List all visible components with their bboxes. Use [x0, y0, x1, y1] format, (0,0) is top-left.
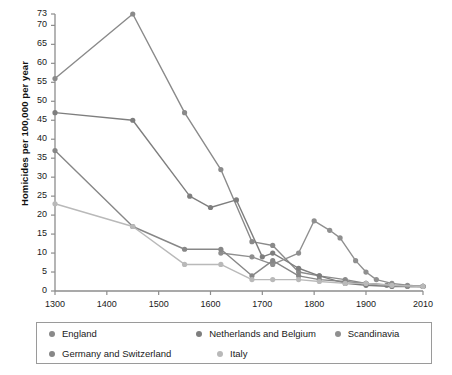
y-tick-label: 73	[25, 8, 47, 18]
y-tick-label: 60	[25, 57, 47, 67]
legend-item-label: Netherlands and Belgium	[209, 328, 316, 339]
y-tick-label: 40	[25, 133, 47, 143]
legend-item-label: Scandinavia	[348, 328, 400, 339]
y-tick-label: 50	[25, 95, 47, 105]
x-axis	[55, 291, 423, 295]
series-england	[52, 11, 425, 289]
chart-legend: EnglandNetherlands and BelgiumScandinavi…	[36, 322, 432, 364]
x-tick-label: 1500	[139, 299, 179, 309]
y-tick-label: 5	[25, 266, 47, 276]
x-tick-label: 2010	[403, 299, 443, 309]
y-tick-label: 20	[25, 209, 47, 219]
homicide-rate-line-chart: Homicides per 100,000 per year 051015202…	[0, 0, 452, 375]
legend-item[interactable]: Scandinavia	[335, 323, 431, 344]
series-italy	[52, 201, 425, 289]
plot-area	[0, 0, 452, 375]
x-tick-label: 1300	[35, 299, 75, 309]
x-tick-label: 1900	[346, 299, 386, 309]
legend-marker-icon	[49, 331, 55, 337]
series-germany-and-switzerland	[52, 148, 425, 289]
series-netherlands-and-belgium	[52, 110, 425, 289]
legend-marker-icon	[196, 331, 202, 337]
x-tick-label: 1700	[242, 299, 282, 309]
y-tick-label: 45	[25, 114, 47, 124]
y-tick-label: 55	[25, 76, 47, 86]
legend-item[interactable]: Netherlands and Belgium	[196, 323, 334, 344]
legend-item-label: England	[62, 328, 97, 339]
legend-marker-icon	[49, 351, 55, 357]
legend-item[interactable]: Germany and Switzerland	[37, 343, 217, 364]
legend-marker-icon	[335, 331, 341, 337]
y-tick-label: 0	[25, 285, 47, 295]
y-tick-label: 30	[25, 171, 47, 181]
y-tick-label: 15	[25, 228, 47, 238]
x-tick-label: 1800	[294, 299, 334, 309]
y-tick-label: 70	[25, 19, 47, 29]
legend-row: EnglandNetherlands and BelgiumScandinavi…	[37, 323, 431, 344]
y-tick-label: 25	[25, 190, 47, 200]
legend-item-label: Italy	[230, 348, 247, 359]
legend-marker-icon	[217, 351, 223, 357]
legend-row: Germany and SwitzerlandItaly	[37, 343, 431, 364]
x-tick-label: 1600	[190, 299, 230, 309]
data-series-group	[52, 11, 425, 289]
y-tick-label: 65	[25, 38, 47, 48]
legend-item-label: Germany and Switzerland	[62, 348, 171, 359]
legend-item[interactable]: Italy	[217, 343, 375, 364]
legend-item[interactable]: England	[37, 323, 196, 344]
y-tick-label: 35	[25, 152, 47, 162]
y-tick-label: 10	[25, 247, 47, 257]
x-tick-label: 1400	[87, 299, 127, 309]
